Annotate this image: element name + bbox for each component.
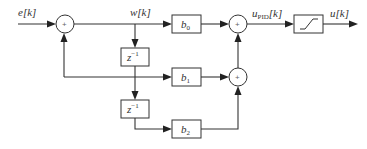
upid-sub: PID [258,13,269,21]
output-label: u[k] [330,7,349,19]
delay-2-exp: −1 [131,102,139,110]
w-label: w[k] [130,6,151,18]
plus-sign: + [235,20,240,29]
upid-suffix: [k] [269,7,282,19]
upid-signal: uPID[k] [247,7,294,28]
svg-text:uPID[k]: uPID[k] [252,7,282,21]
delay-1-exp: −1 [131,50,139,58]
input-label: e[k] [18,6,36,18]
w-signal: w[k] [74,6,172,28]
output-signal: u[k] [323,7,358,28]
gain-block-b2: b2 [172,120,201,138]
gain-block-b1: b1 [172,68,201,86]
delay-block-2: z−1 [121,100,149,118]
plus-sign: + [235,73,240,82]
plus-sign: + [62,20,67,29]
summing-junction-3: + [229,68,247,86]
pid-block-diagram: e[k] + w[k] z−1 b0 b1 [0,0,367,149]
summing-junction-1: + [56,15,74,33]
b2-sub: 2 [187,129,191,137]
b1-sub: 1 [187,77,191,85]
b0-sub: 0 [187,24,191,32]
saturation-block [294,15,323,33]
gain-block-b0: b0 [172,15,201,33]
summing-junction-2: + [229,15,247,33]
delay-block-1: z−1 [121,48,149,66]
input-signal: e[k] [18,6,56,28]
